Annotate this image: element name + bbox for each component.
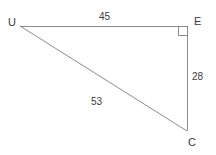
- side-length-ue: 45: [99, 12, 110, 22]
- triangle-edges: [20, 26, 187, 131]
- side-length-uc: 53: [91, 97, 102, 107]
- triangle-figure: [0, 0, 216, 155]
- vertex-label-c: C: [188, 137, 196, 148]
- diagram-canvas: U E C 45 28 53: [0, 0, 216, 155]
- vertex-label-u: U: [8, 17, 16, 28]
- triangle-side-uc: [20, 26, 187, 131]
- right-angle-marker: [178, 26, 187, 35]
- vertex-label-e: E: [194, 16, 201, 27]
- side-length-ec: 28: [192, 72, 203, 82]
